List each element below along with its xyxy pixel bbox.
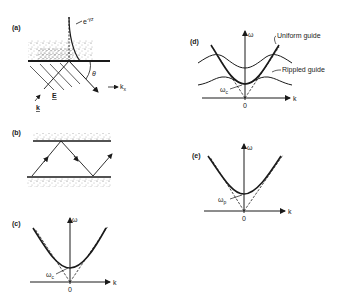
cutoff-label: ωc — [220, 86, 228, 95]
lower-cladding — [27, 178, 111, 187]
upper-cladding — [33, 133, 111, 140]
exit-ray — [93, 154, 112, 176]
panel-b-label: (b) — [12, 129, 21, 137]
wavefront-0 — [30, 66, 54, 90]
panel-c: (c) ω k 0 ωc — [12, 216, 117, 293]
incident-ray — [44, 61, 69, 89]
uniform-guide-label: Uniform guide — [277, 32, 321, 40]
cutoff-pointer — [56, 268, 68, 274]
cutoff-label: ωc — [46, 271, 54, 280]
E-label: E — [52, 92, 57, 99]
light-line-right — [244, 155, 283, 211]
k-label: k — [293, 95, 297, 102]
k-label: k — [288, 208, 292, 215]
panel-a: (a) e-γz θ kx k E — [12, 16, 127, 111]
omega-label: ω — [247, 144, 253, 151]
wavefront-2 — [50, 64, 72, 87]
uniform-pointer — [275, 36, 277, 44]
origin-label: 0 — [242, 215, 246, 222]
panel-d-label: (d) — [190, 38, 199, 46]
kx-label: kx — [120, 83, 127, 92]
rippled-guide-label: Rippled guide — [282, 66, 325, 74]
decay-pointer — [76, 21, 82, 24]
cutoff-label: ωp — [218, 196, 226, 205]
rippled-pointer — [272, 70, 281, 72]
zigzag-ray — [32, 141, 93, 176]
panel-d: (d) ω k 0 ωc Uniform guide Rippled guide — [190, 31, 325, 109]
omega-label: ω — [72, 216, 78, 223]
angle-arc — [86, 61, 91, 79]
angle-label: θ — [92, 70, 96, 77]
panel-e: (e) ω k 0 ωp — [192, 144, 292, 222]
k-label: k — [113, 279, 117, 286]
figure: (a) e-γz θ kx k E (b) — [0, 0, 338, 303]
panel-a-label: (a) — [12, 24, 21, 32]
medium-stipple-dense — [38, 48, 73, 61]
cutoff-pointer — [230, 85, 242, 89]
k-label: k — [36, 104, 40, 111]
wavefront-3 — [60, 63, 80, 84]
panel-c-label: (c) — [12, 220, 21, 228]
origin-label: 0 — [68, 286, 72, 293]
decay-label: e-γz — [83, 16, 94, 25]
k-arrow — [35, 95, 40, 101]
ray-arrow-1 — [44, 157, 48, 162]
panel-e-label: (e) — [192, 152, 201, 160]
wavefront-1 — [40, 64, 64, 90]
panel-b: (b) — [12, 129, 112, 187]
cutoff-pointer — [230, 195, 242, 199]
origin-label: 0 — [243, 102, 247, 109]
omega-label: ω — [248, 31, 254, 38]
